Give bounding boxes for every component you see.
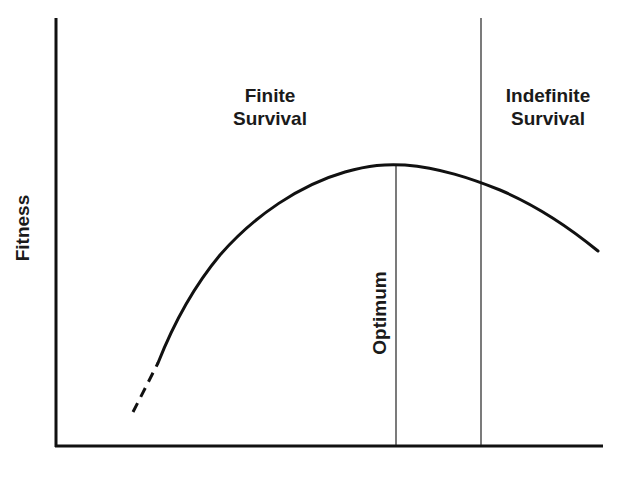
fitness-diagram bbox=[0, 0, 618, 480]
indefinite-label-line2: Survival bbox=[488, 107, 608, 130]
optimum-label: Optimum bbox=[369, 263, 391, 363]
indefinite-survival-label: Indefinite Survival bbox=[488, 84, 608, 130]
fitness-curve-dashed bbox=[133, 363, 158, 412]
finite-survival-label: Finite Survival bbox=[220, 84, 320, 130]
indefinite-label-line1: Indefinite bbox=[488, 84, 608, 107]
finite-label-line1: Finite bbox=[220, 84, 320, 107]
y-axis-label: Fitness bbox=[12, 193, 34, 263]
finite-label-line2: Survival bbox=[220, 107, 320, 130]
